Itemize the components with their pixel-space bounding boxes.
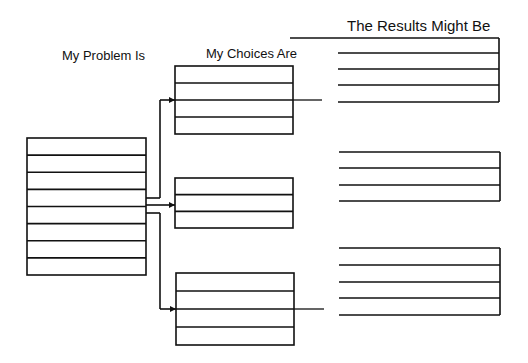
decision-worksheet: My Problem Is My Choices Are The Results…: [0, 0, 528, 363]
arrow-icon: [170, 306, 176, 312]
arrow-icon: [169, 202, 175, 208]
choice-box-2: [175, 178, 293, 228]
arrow-icon: [169, 97, 175, 103]
diagram-lines: [0, 0, 528, 363]
